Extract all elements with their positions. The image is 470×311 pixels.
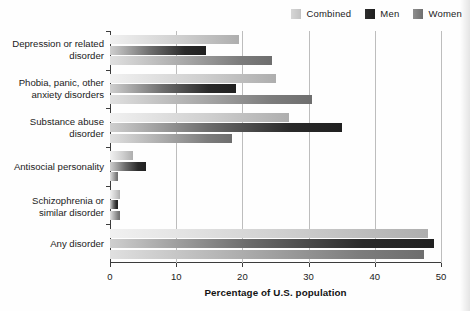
bar-women-0 <box>110 56 272 65</box>
x-tick-label-20: 20 <box>237 271 248 282</box>
y-label-line2: similar disorder <box>39 206 104 217</box>
bar-group <box>110 31 441 70</box>
legend-label-combined: Combined <box>306 8 351 19</box>
gridline-50 <box>441 31 442 263</box>
y-label-line1: Depression or related <box>12 38 104 49</box>
bar-combined-5 <box>110 229 428 238</box>
x-tick-label-50: 50 <box>436 271 447 282</box>
x-tick-50 <box>441 263 442 267</box>
legend-swatch-combined <box>291 9 301 19</box>
bar-group <box>110 147 441 186</box>
chart-legend: Combined Men Women <box>291 8 462 19</box>
x-tick-label-30: 30 <box>303 271 314 282</box>
page-edge-shadow <box>460 0 470 311</box>
y-label-line2: disorder <box>69 49 104 60</box>
y-tick <box>106 186 110 187</box>
y-label-substance: Substance abuse disorder <box>0 116 104 139</box>
bar-men-1 <box>110 84 236 93</box>
legend-label-women: Women <box>428 8 462 19</box>
x-tick-label-10: 10 <box>171 271 182 282</box>
y-label-schizophrenia: Schizophrenia or similar disorder <box>0 195 104 218</box>
y-tick <box>106 224 110 225</box>
legend-label-men: Men <box>380 8 399 19</box>
y-label-depression: Depression or related disorder <box>0 38 104 61</box>
y-label-line2: disorder <box>69 127 104 138</box>
bar-combined-2 <box>110 113 289 122</box>
bar-group <box>110 186 441 225</box>
bar-men-2 <box>110 123 342 132</box>
bar-men-4 <box>110 200 118 209</box>
y-tick <box>106 70 110 71</box>
y-label-line1: Any disorder <box>50 238 104 249</box>
x-tick-0 <box>110 263 111 267</box>
y-label-line1: Antisocial personality <box>14 161 104 172</box>
x-tick-20 <box>242 263 243 267</box>
bar-group <box>110 70 441 109</box>
x-tick-label-40: 40 <box>370 271 381 282</box>
y-label-line1: Phobia, panic, other <box>19 77 104 88</box>
y-tick <box>106 31 110 32</box>
y-tick <box>106 147 110 148</box>
y-label-phobia: Phobia, panic, other anxiety disorders <box>0 77 104 100</box>
y-axis-labels: Depression or related disorder Phobia, p… <box>0 31 104 263</box>
bar-group <box>110 108 441 147</box>
bar-men-3 <box>110 162 146 171</box>
bar-women-5 <box>110 250 424 259</box>
x-tick-10 <box>176 263 177 267</box>
x-tick-30 <box>309 263 310 267</box>
bar-combined-0 <box>110 35 239 44</box>
x-axis-title: Percentage of U.S. population <box>110 287 441 298</box>
bar-combined-1 <box>110 74 276 83</box>
legend-swatch-men <box>365 9 375 19</box>
y-label-line1: Schizophrenia or <box>32 195 104 206</box>
bar-group <box>110 224 441 263</box>
y-tick <box>106 108 110 109</box>
x-tick-label-0: 0 <box>107 271 112 282</box>
x-tick-40 <box>375 263 376 267</box>
bar-women-1 <box>110 95 312 104</box>
bar-men-5 <box>110 239 434 248</box>
bar-women-3 <box>110 172 118 181</box>
legend-entry-combined: Combined <box>291 8 351 19</box>
legend-entry-women: Women <box>413 8 462 19</box>
chart-figure: Combined Men Women Depression or related… <box>0 0 470 311</box>
legend-entry-men: Men <box>365 8 399 19</box>
y-label-antisocial: Antisocial personality <box>0 161 104 173</box>
y-label-any-disorder: Any disorder <box>0 238 104 250</box>
bar-women-2 <box>110 134 232 143</box>
bar-men-0 <box>110 46 206 55</box>
legend-swatch-women <box>413 9 423 19</box>
bar-combined-3 <box>110 151 133 160</box>
y-label-line1: Substance abuse <box>30 116 104 127</box>
bar-combined-4 <box>110 190 120 199</box>
bar-women-4 <box>110 211 120 220</box>
plot-area: 01020304050 <box>110 31 441 263</box>
y-label-line2: anxiety disorders <box>31 88 104 99</box>
